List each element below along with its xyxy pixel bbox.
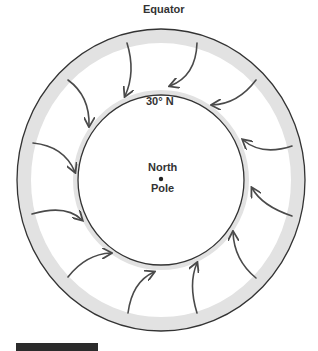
bottom-bar [16,343,98,351]
arrow-icon [170,43,197,86]
arrow-icon [33,143,75,172]
latitude-30n-label: 30° N [146,95,174,107]
arrow-icon [125,43,131,96]
arrow-icon [68,80,89,126]
arrow-icon [128,272,154,313]
equator-label: Equator [143,3,185,15]
arrow-icon [193,263,198,313]
arrow-icon [68,253,111,277]
arrow-icon [233,232,256,278]
arrow-icon [212,80,256,105]
arrow-icon [32,210,82,220]
arrow-icon [252,188,292,216]
arrow-icon [243,140,292,150]
north-pole-label-line1: North [148,161,177,173]
north-pole-label-line2: Pole [151,182,174,194]
wind-circulation-diagram [0,0,318,351]
north-pole-dot [159,177,163,181]
